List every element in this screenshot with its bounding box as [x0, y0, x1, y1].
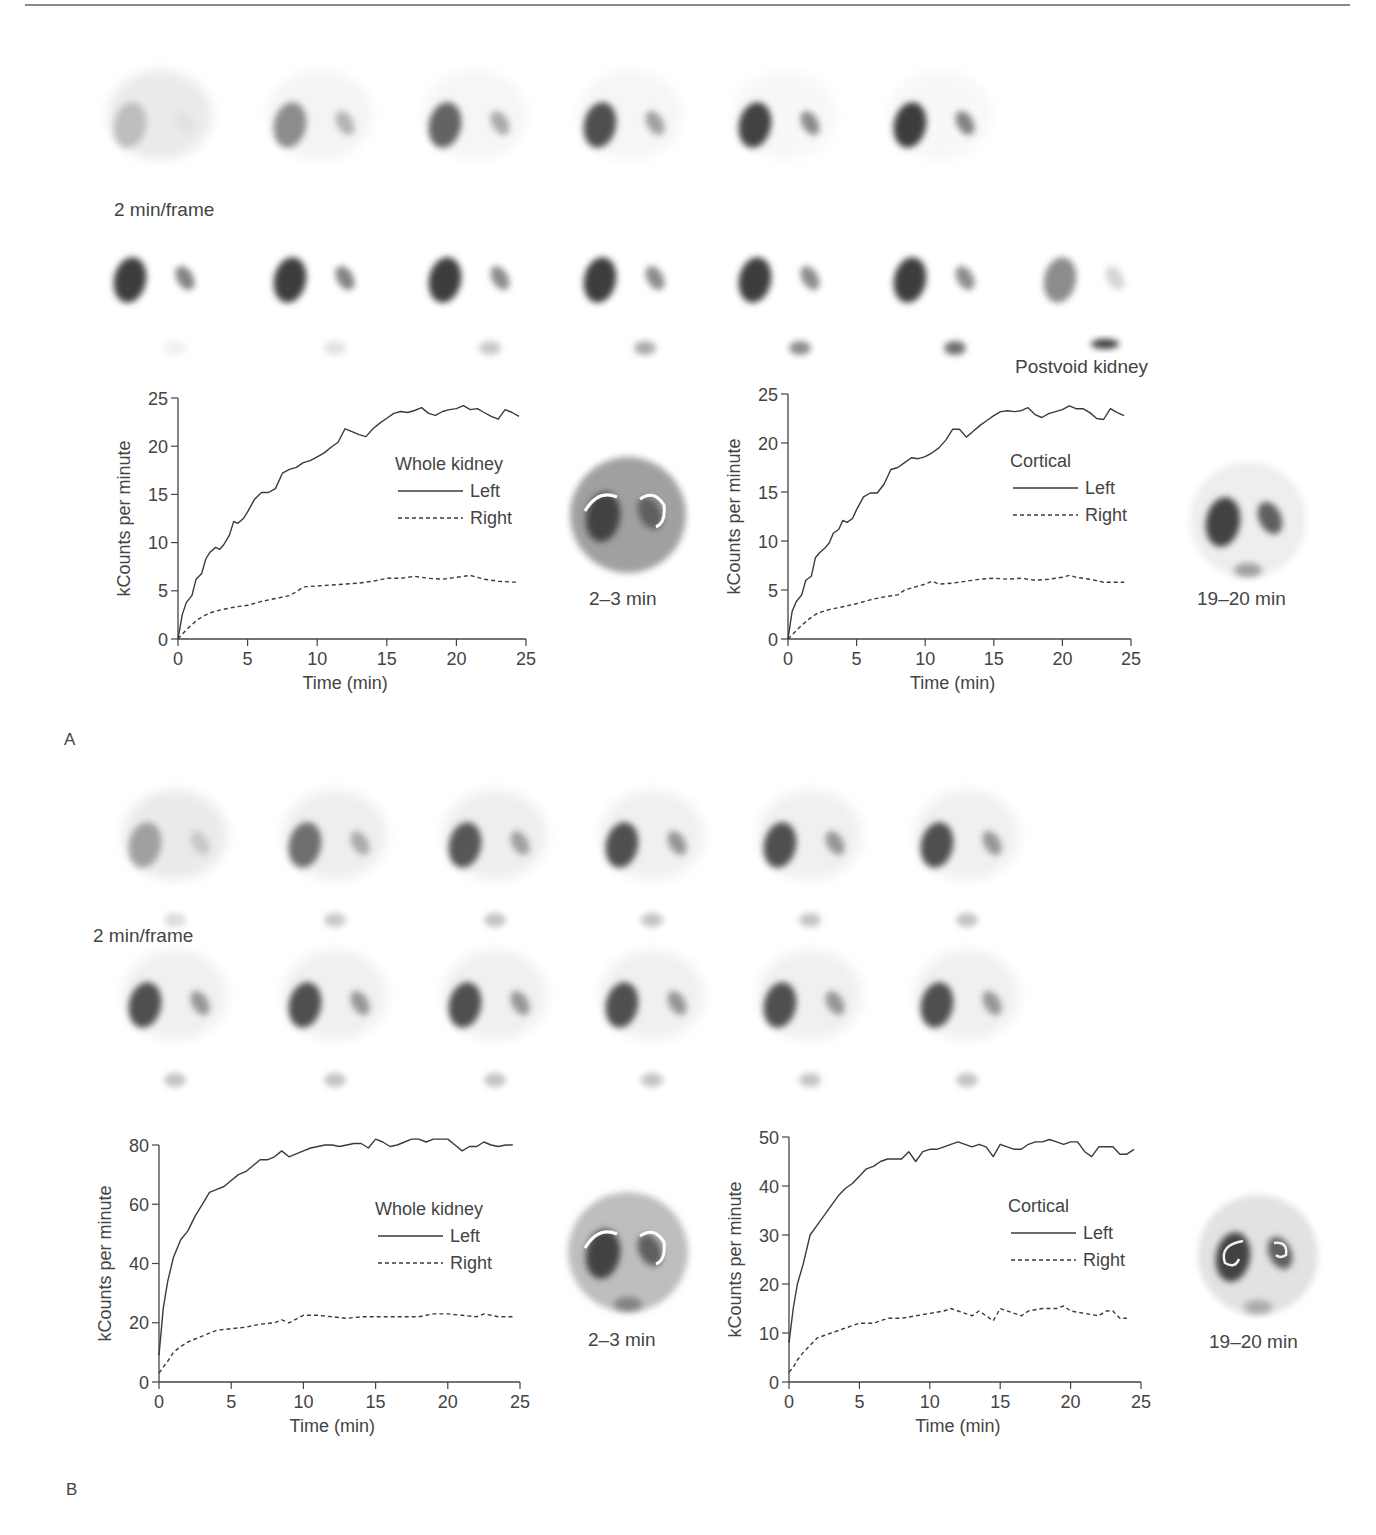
chart-legend: Whole kidneyLeftRight	[395, 454, 512, 528]
x-tick-label: 25	[510, 1392, 530, 1412]
x-axis-label: Time (min)	[302, 673, 387, 693]
legend-left-label: Left	[1085, 478, 1115, 498]
chart-legend: CorticalLeftRight	[1008, 1196, 1125, 1270]
bladder-blob	[164, 1073, 186, 1087]
y-tick-label: 30	[759, 1226, 779, 1246]
bladder-blob	[634, 341, 656, 355]
x-axis-label: Time (min)	[290, 1416, 375, 1436]
scan-frame-A-2	[425, 254, 514, 355]
x-tick-label: 5	[852, 649, 862, 669]
x-axis-label: Time (min)	[915, 1416, 1000, 1436]
panel-b-thumb-label-early: 2–3 min	[588, 1329, 656, 1351]
bladder-blob	[324, 1073, 346, 1087]
x-tick-label: 0	[783, 649, 793, 669]
y-axis-label: kCounts per minute	[95, 1185, 115, 1341]
bladder-blob	[479, 341, 501, 355]
y-tick-label: 10	[759, 1324, 779, 1344]
y-tick-label: 15	[148, 485, 168, 505]
legend-right-label: Right	[470, 508, 512, 528]
chart-A-cortical: 05101520250510152025Time (min)kCounts pe…	[724, 385, 1141, 694]
roi-thumbnail-A-1	[1190, 462, 1306, 578]
right-kidney-blob	[487, 263, 514, 294]
y-tick-label: 20	[758, 434, 778, 454]
x-tick-label: 5	[243, 649, 253, 669]
y-tick-label: 20	[759, 1275, 779, 1295]
x-tick-label: 0	[154, 1392, 164, 1412]
scan-frame-B-1	[283, 790, 387, 927]
x-tick-label: 15	[366, 1392, 386, 1412]
roi-thumbnail-B-0	[568, 1192, 688, 1312]
scan-frame-A-2	[423, 70, 527, 160]
left-kidney-blob	[1040, 254, 1081, 306]
left-kidney-blob	[425, 254, 466, 306]
bladder-blob	[641, 913, 663, 927]
bladder-blob	[956, 1073, 978, 1087]
scan-frame-B-3	[600, 950, 704, 1087]
panel-letter-a: A	[64, 730, 75, 750]
x-tick-label: 20	[438, 1392, 458, 1412]
bladder-blob	[944, 341, 966, 355]
x-tick-label: 20	[446, 649, 466, 669]
x-tick-label: 15	[984, 649, 1004, 669]
legend-title: Whole kidney	[395, 454, 503, 474]
scan-frame-B-5	[915, 790, 1019, 927]
bladder-blob	[484, 913, 506, 927]
scan-frame-B-0	[123, 950, 227, 1087]
series-right-line	[178, 575, 519, 639]
legend-right-label: Right	[450, 1253, 492, 1273]
x-tick-label: 5	[854, 1392, 864, 1412]
legend-right-label: Right	[1085, 505, 1127, 525]
figure-canvas: 05101520250510152025Time (min)kCounts pe…	[0, 0, 1376, 1535]
x-tick-label: 15	[377, 649, 397, 669]
y-tick-label: 5	[768, 581, 778, 601]
bladder-blob	[799, 1073, 821, 1087]
scan-frame-B-4	[758, 950, 862, 1087]
legend-title: Cortical	[1010, 451, 1071, 471]
y-tick-label: 25	[148, 389, 168, 409]
x-tick-label: 10	[307, 649, 327, 669]
legend-left-label: Left	[1083, 1223, 1113, 1243]
bladder-blob	[164, 341, 186, 355]
bladder-blob	[484, 1073, 506, 1087]
scan-frame-A-3	[578, 70, 682, 160]
x-tick-label: 0	[784, 1392, 794, 1412]
y-tick-label: 15	[758, 483, 778, 503]
scan-frame-A-5	[890, 254, 979, 355]
right-kidney-blob	[1102, 263, 1129, 294]
chart-A-whole: 05101520250510152025Time (min)kCounts pe…	[114, 389, 536, 694]
right-kidney-blob	[952, 263, 979, 294]
roi-thumbnail-B-1	[1198, 1195, 1318, 1315]
y-tick-label: 10	[758, 532, 778, 552]
panel-a-frame-rate-label: 2 min/frame	[114, 199, 214, 221]
y-tick-label: 60	[129, 1195, 149, 1215]
y-tick-label: 40	[129, 1254, 149, 1274]
panel-a-postvoid-label: Postvoid kidney	[1015, 356, 1148, 378]
scan-frame-A-6	[1040, 254, 1129, 349]
series-left-line	[159, 1139, 513, 1355]
bladder-blob	[641, 1073, 663, 1087]
right-kidney-blob	[642, 263, 669, 294]
right-kidney-blob	[797, 263, 824, 294]
left-kidney-blob	[890, 254, 931, 306]
y-tick-label: 50	[759, 1128, 779, 1148]
legend-title: Cortical	[1008, 1196, 1069, 1216]
chart-B-cortical: 010203040500510152025Time (min)kCounts p…	[725, 1128, 1151, 1437]
left-kidney-blob	[735, 254, 776, 306]
panel-a-thumb-label-late: 19–20 min	[1197, 588, 1286, 610]
bladder-blob	[1234, 563, 1262, 577]
scan-frame-A-0	[110, 254, 199, 355]
bladder-blob	[789, 341, 811, 355]
y-axis-label: kCounts per minute	[114, 440, 134, 596]
y-tick-label: 20	[129, 1313, 149, 1333]
scan-frame-A-0	[108, 70, 212, 160]
y-tick-label: 80	[129, 1136, 149, 1156]
chart-B-whole: 0204060800510152025Time (min)kCounts per…	[95, 1136, 530, 1437]
scan-frame-B-0	[123, 790, 227, 927]
y-tick-label: 20	[148, 437, 168, 457]
right-kidney-blob	[172, 263, 199, 294]
right-kidney-blob	[332, 263, 359, 294]
legend-title: Whole kidney	[375, 1199, 483, 1219]
y-tick-label: 5	[158, 581, 168, 601]
scan-frame-A-3	[580, 254, 669, 355]
scan-frame-B-1	[283, 950, 387, 1087]
